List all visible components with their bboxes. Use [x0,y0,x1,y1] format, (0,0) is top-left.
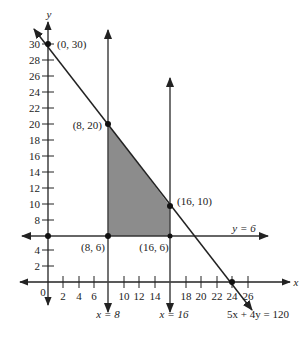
svg-text:22: 22 [29,102,40,114]
svg-text:26: 26 [243,290,255,302]
svg-text:24: 24 [29,86,41,98]
svg-text:10: 10 [119,290,131,302]
point-16-10 [167,203,173,209]
feasible-region [108,124,170,236]
point-0-30 [45,41,51,47]
point-8-20 [105,121,111,127]
label-0-30: (0, 30) [57,38,87,51]
svg-text:2: 2 [60,290,66,302]
svg-text:4: 4 [76,290,82,302]
svg-text:26: 26 [29,70,41,82]
svg-text:24: 24 [227,290,239,302]
label-8-20: (8, 20) [73,119,103,132]
svg-text:14: 14 [29,166,41,178]
svg-text:4: 4 [35,244,41,256]
svg-text:12: 12 [29,182,40,194]
x-tick-labels: 2 4 6 10 12 14 18 20 22 24 26 [60,290,254,302]
svg-text:14: 14 [150,290,162,302]
line-constraint [34,29,252,310]
feasible-region-graph: 2 4 8 10 12 14 16 18 20 22 24 26 28 30 2… [0,0,307,341]
svg-text:28: 28 [29,54,41,66]
y-tick-labels: 2 4 8 10 12 14 16 18 20 22 24 26 28 30 [29,38,41,272]
svg-text:18: 18 [29,134,41,146]
x-axis-label: x [293,276,299,288]
svg-text:20: 20 [29,118,41,130]
svg-text:30: 30 [29,38,41,50]
point-16-6 [168,234,173,239]
label-x8: x = 8 [95,308,120,320]
svg-text:8: 8 [35,214,41,226]
svg-text:2: 2 [35,260,41,272]
svg-text:16: 16 [29,150,41,162]
y-axis-label: y [46,8,52,20]
point-24-0 [229,279,235,285]
svg-text:6: 6 [91,290,97,302]
label-8-6: (8, 6) [81,241,105,254]
svg-text:22: 22 [212,290,223,302]
label-x16: x = 16 [159,308,189,320]
origin-label: 0 [40,286,46,298]
label-y6: y = 6 [231,222,256,234]
point-0-6 [45,233,51,239]
label-16-10: (16, 10) [177,195,212,208]
svg-text:20: 20 [196,290,208,302]
svg-text:10: 10 [29,198,41,210]
svg-text:18: 18 [181,290,193,302]
label-constraint: 5x + 4y = 120 [227,308,289,320]
label-16-6: (16, 6) [139,241,169,254]
point-8-6 [105,233,111,239]
svg-text:12: 12 [134,290,145,302]
